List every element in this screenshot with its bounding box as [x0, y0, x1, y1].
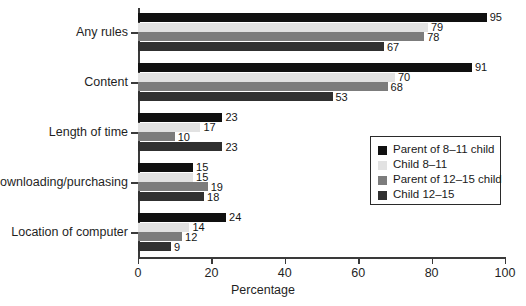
bar-value-label: 18	[207, 191, 219, 203]
bar	[138, 32, 424, 41]
legend-swatch-icon	[378, 176, 387, 185]
x-axis-tick	[285, 258, 286, 264]
legend-swatch-icon	[378, 191, 387, 200]
legend-item-label: Parent of 8–11 child	[393, 144, 494, 156]
bar	[138, 163, 193, 172]
legend-item-label: Child 8–11	[393, 159, 447, 171]
x-axis-tick-label: 40	[278, 266, 292, 280]
bar	[138, 142, 222, 151]
bar-value-label: 68	[391, 81, 403, 93]
bar-value-label: 10	[178, 131, 190, 143]
legend-swatch-icon	[378, 146, 387, 155]
bar	[138, 132, 175, 141]
bar-value-label: 12	[185, 231, 197, 243]
x-axis-tick	[432, 258, 433, 264]
category-label: Downloading/purchasing	[0, 175, 128, 189]
bar-value-label: 23	[225, 111, 237, 123]
legend-item: Parent of 8–11 child	[378, 143, 494, 157]
bar-value-label: 53	[336, 91, 348, 103]
x-axis-tick-label: 20	[204, 266, 218, 280]
bar	[138, 192, 204, 201]
category-label: Content	[84, 75, 128, 89]
bar	[138, 182, 208, 191]
bar	[138, 92, 333, 101]
x-axis-tick-label: 100	[495, 266, 516, 280]
legend-item-label: Child 12–15	[393, 189, 454, 201]
bar-value-label: 78	[427, 31, 439, 43]
x-axis-title: Percentage	[0, 283, 526, 297]
x-axis-tick-label: 80	[425, 266, 439, 280]
bar	[138, 73, 395, 82]
y-axis-tick	[131, 182, 138, 184]
x-axis-tick	[505, 258, 506, 264]
legend-item: Parent of 12–15 child	[378, 173, 502, 187]
bar-value-label: 24	[229, 211, 241, 223]
legend-swatch-icon	[378, 161, 387, 170]
bar-value-label: 91	[475, 61, 487, 73]
x-axis-tick	[358, 258, 359, 264]
x-axis-tick-label: 60	[351, 266, 365, 280]
y-axis-tick	[131, 132, 138, 134]
y-axis-tick	[131, 32, 138, 34]
plot-area: 957978679170685323171023151519182414129	[138, 8, 505, 258]
y-axis-tick	[131, 232, 138, 234]
bar-chart: Any rulesContentLength of timeDownloadin…	[0, 0, 526, 306]
category-label: Length of time	[49, 125, 128, 139]
bar	[138, 173, 193, 182]
bar	[138, 23, 428, 32]
legend: Parent of 8–11 childChild 8–11Parent of …	[370, 136, 501, 205]
legend-item: Child 8–11	[378, 158, 447, 172]
bar	[138, 242, 171, 251]
bar	[138, 223, 189, 232]
category-label: Any rules	[76, 25, 128, 39]
x-axis-tick-label: 0	[135, 266, 142, 280]
bar-value-label: 95	[490, 11, 502, 23]
bar-value-label: 15	[196, 171, 208, 183]
category-label: Location of computer	[11, 225, 128, 239]
bar-value-label: 17	[203, 121, 215, 133]
x-axis-tick	[138, 258, 139, 264]
bar	[138, 63, 472, 72]
legend-item: Child 12–15	[378, 188, 454, 202]
bar	[138, 42, 384, 51]
bar-value-label: 67	[387, 41, 399, 53]
bar-value-label: 23	[225, 141, 237, 153]
bar	[138, 82, 388, 91]
y-axis-tick	[131, 82, 138, 84]
legend-item-label: Parent of 12–15 child	[393, 174, 502, 186]
bar-value-label: 9	[174, 241, 180, 253]
x-axis-tick	[211, 258, 212, 264]
bar	[138, 123, 200, 132]
bar	[138, 213, 226, 222]
